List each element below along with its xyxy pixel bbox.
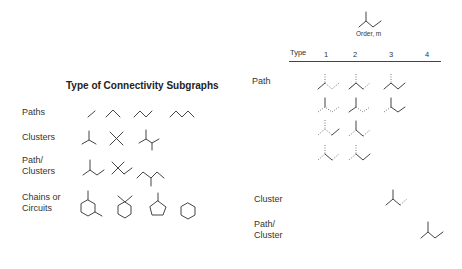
path-cluster-subgraph-icon bbox=[0, 0, 462, 269]
